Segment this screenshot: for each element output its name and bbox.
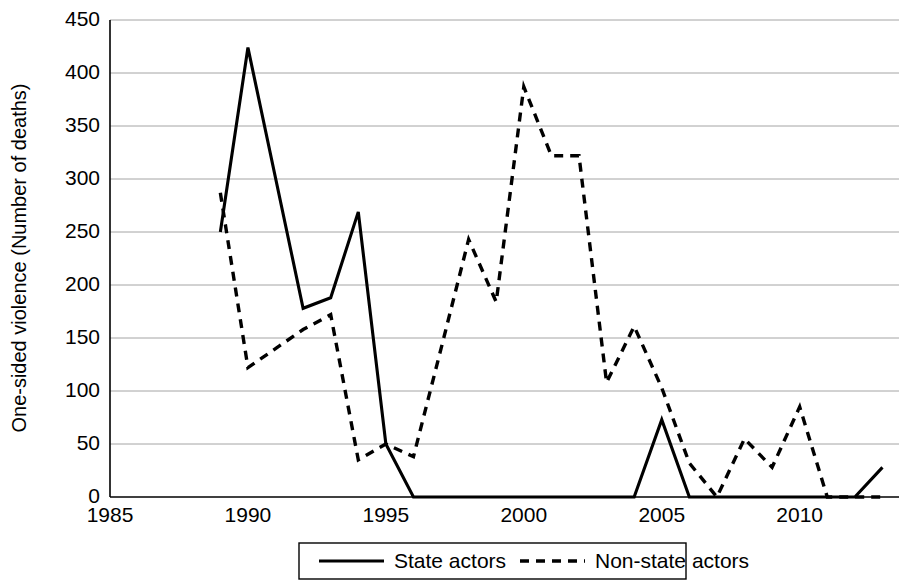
y-tick-label: 100 xyxy=(65,378,100,401)
x-axis-tick-labels: 198519901995200020052010 xyxy=(87,503,823,526)
y-tick-label: 350 xyxy=(65,113,100,136)
y-tick-label: 300 xyxy=(65,166,100,189)
x-tick-label: 2010 xyxy=(776,503,823,526)
x-tick-label: 1995 xyxy=(363,503,410,526)
chart-figure: 050100150200250300350400450 198519901995… xyxy=(0,0,909,586)
y-tick-label: 200 xyxy=(65,272,100,295)
line-chart: 050100150200250300350400450 198519901995… xyxy=(0,0,909,586)
y-axis-tick-labels: 050100150200250300350400450 xyxy=(65,7,100,507)
chart-legend: State actors Non-state actors xyxy=(299,543,749,579)
legend-label-non-state-actors: Non-state actors xyxy=(595,549,749,572)
y-tick-label: 150 xyxy=(65,325,100,348)
series-layer xyxy=(220,48,882,497)
y-tick-label: 450 xyxy=(65,7,100,30)
x-tick-label: 1990 xyxy=(225,503,272,526)
legend-label-state-actors: State actors xyxy=(394,549,506,572)
x-tick-label: 2005 xyxy=(638,503,685,526)
series-line-state-actors xyxy=(220,48,882,497)
y-tick-label: 400 xyxy=(65,60,100,83)
y-tick-label: 50 xyxy=(77,431,100,454)
y-axis-title: One-sided violence (Number of deaths) xyxy=(8,83,30,432)
series-line-non-state-actors xyxy=(220,87,882,497)
y-tick-label: 250 xyxy=(65,219,100,242)
x-tick-label: 2000 xyxy=(500,503,547,526)
x-tick-label: 1985 xyxy=(87,503,134,526)
